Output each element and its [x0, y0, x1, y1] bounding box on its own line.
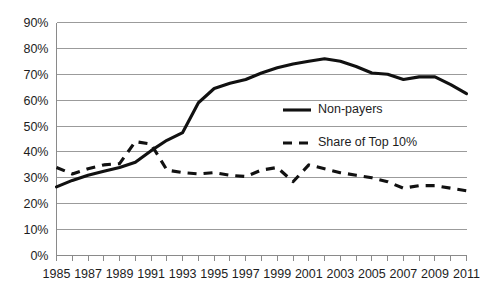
x-axis-tick-label: 1995	[200, 267, 228, 281]
y-axis-tick-label: 10%	[23, 223, 48, 237]
y-axis-tick-label: 30%	[23, 171, 48, 185]
y-axis-tick-label: 70%	[23, 68, 48, 82]
x-axis-tick-label: 2009	[421, 267, 449, 281]
x-axis-tick-label: 1985	[43, 267, 71, 281]
y-axis-tick-label: 50%	[23, 120, 48, 134]
x-axis-tick-label: 2011	[453, 267, 480, 281]
y-axis-tick-label: 60%	[23, 94, 48, 108]
chart-container: 0%10%20%30%40%50%60%70%80%90% 1985198719…	[0, 0, 485, 297]
x-axis-tick-label: 2005	[358, 267, 386, 281]
x-axis-tick-label: 1999	[263, 267, 291, 281]
x-axis-tick-label: 1989	[106, 267, 134, 281]
legend-label: Non-payers	[318, 102, 383, 116]
y-axis-tick-label: 90%	[23, 16, 48, 30]
y-axis-tick-label: 80%	[23, 42, 48, 56]
x-axis-tick-label: 1991	[137, 267, 165, 281]
x-axis-tick-label: 2001	[295, 267, 323, 281]
y-axis-tick-label: 40%	[23, 145, 48, 159]
y-axis-tick-label: 20%	[23, 197, 48, 211]
x-axis-tick-label: 2007	[390, 267, 418, 281]
x-axis-tick-label: 1987	[74, 267, 102, 281]
x-axis-tick-label: 2003	[326, 267, 354, 281]
legend-label: Share of Top 10%	[318, 135, 417, 149]
line-chart: 0%10%20%30%40%50%60%70%80%90% 1985198719…	[0, 0, 485, 297]
y-axis-tick-label: 0%	[30, 249, 48, 263]
x-axis-tick-label: 1993	[169, 267, 197, 281]
x-axis-tick-label: 1997	[232, 267, 260, 281]
